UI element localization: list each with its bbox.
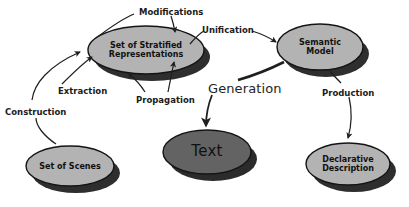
node-label-declarative-line1: Declarative xyxy=(288,155,408,164)
edge-construction xyxy=(36,118,56,144)
node-label-declarative-description: Declarative Description xyxy=(288,155,408,174)
node-label-semantic-model: Semantic Model xyxy=(260,38,380,57)
node-label-stratified-line1: Set of Stratified xyxy=(86,41,206,50)
edge-label-modifications: Modifications xyxy=(139,8,203,17)
footer-partial-text xyxy=(0,197,409,207)
node-label-declarative-line2: Description xyxy=(288,164,408,173)
edge-production-arrow xyxy=(348,97,351,138)
edge-generation-tail xyxy=(238,62,284,80)
node-label-scenes-line1: Set of Scenes xyxy=(10,162,130,171)
node-label-semantic-line1: Semantic xyxy=(260,38,380,47)
edge-label-propagation: Propagation xyxy=(136,96,195,105)
edge-label-generation: Generation xyxy=(208,82,282,95)
edge-generation-arrow xyxy=(206,95,212,126)
node-label-stratified-line2: Representations xyxy=(86,50,206,59)
edge-label-construction: Construction xyxy=(5,108,66,117)
node-label-text-line1: Text xyxy=(147,143,267,161)
node-label-text: Text xyxy=(147,143,267,161)
node-label-set-of-scenes: Set of Scenes xyxy=(10,162,130,171)
edge-extraction-arrow xyxy=(62,57,92,84)
edge-label-unification: Unification xyxy=(202,26,254,35)
edge-label-extraction: Extraction xyxy=(58,87,107,96)
node-label-semantic-line2: Model xyxy=(260,47,380,56)
edge-label-production: Production xyxy=(322,89,374,98)
node-label-stratified: Set of Stratified Representations xyxy=(86,41,206,60)
